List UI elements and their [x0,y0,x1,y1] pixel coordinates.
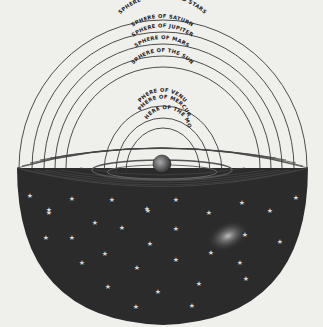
svg-text:★: ★ [79,259,85,267]
svg-text:★: ★ [133,303,139,311]
svg-text:★: ★ [293,194,299,202]
svg-text:★: ★ [206,209,212,217]
svg-text:★: ★ [267,207,273,215]
earth [153,155,171,173]
svg-text:★: ★ [43,234,49,242]
svg-text:★: ★ [242,231,248,239]
svg-text:★: ★ [145,207,151,215]
svg-text:★: ★ [189,302,195,310]
svg-text:★: ★ [173,256,179,264]
svg-text:★: ★ [196,280,202,288]
svg-text:★: ★ [277,238,283,246]
svg-text:★: ★ [102,250,108,258]
svg-text:★: ★ [69,234,75,242]
svg-text:★: ★ [208,249,214,257]
lower-hemisphere [17,168,308,325]
svg-text:★: ★ [105,283,111,291]
svg-text:★: ★ [92,219,98,227]
svg-text:★: ★ [173,196,179,204]
svg-text:★: ★ [109,196,115,204]
svg-text:★: ★ [27,192,33,200]
svg-text:★: ★ [173,225,179,233]
svg-text:★: ★ [69,195,75,203]
svg-text:★: ★ [119,224,125,232]
svg-text:★: ★ [155,288,161,296]
label-moon: SPHERE OF THE MOON [0,0,193,129]
celestial-spheres-diagram: ★ ★ ★ ★ ★ ★ ★ ★ ★ ★ ★ ★ ★ ★ ★ ★ ★ ★ ★ ★ … [0,0,323,327]
svg-text:★: ★ [147,240,153,248]
svg-text:★: ★ [243,275,249,283]
svg-text:★: ★ [134,264,140,272]
svg-text:★: ★ [46,209,52,217]
label-fixed-stars: SPHERE OF THE FIXED STARS [117,0,208,15]
svg-text:★: ★ [237,259,243,267]
svg-text:★: ★ [239,199,245,207]
